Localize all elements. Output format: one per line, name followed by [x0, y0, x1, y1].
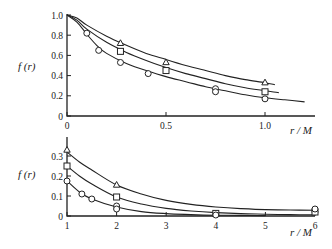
top-circle-marker: [213, 89, 219, 95]
top-square-marker: [163, 68, 169, 74]
bottom-triangle-marker: [64, 147, 70, 153]
top-square-marker: [262, 89, 268, 95]
bottom-panel: 12345600.10.20.3 f (r) r / M: [18, 137, 318, 238]
bottom-x-tick-label: 4: [213, 221, 218, 231]
top-axes: [67, 14, 315, 116]
top-x-tick-label: 0.5: [160, 121, 172, 131]
bottom-x-axis-label: r / M: [290, 226, 313, 238]
bottom-circle-marker: [114, 206, 120, 212]
top-x-tick-label: 1.0: [259, 121, 271, 131]
top-x-tick-label: 0: [65, 121, 70, 131]
bottom-square-marker: [114, 194, 120, 200]
bottom-y-tick-label: 0: [58, 212, 63, 222]
top-x-axis-label: r / M: [290, 124, 313, 136]
top-y-tick-label: 0.2: [51, 91, 63, 101]
bottom-y-tick-label: 0.1: [51, 192, 63, 202]
bottom-circle-marker: [64, 178, 70, 184]
bottom-circle-series-line: [67, 181, 265, 216]
top-y-tick-label: 0.4: [51, 71, 63, 81]
bottom-circle-marker: [89, 196, 95, 202]
top-circle-marker: [262, 96, 268, 102]
bottom-x-tick-label: 6: [313, 221, 318, 231]
top-panel: 00.51.000.20.40.60.81.0 f (r) r / M: [18, 11, 315, 137]
bottom-y-tick-label: 0.3: [51, 152, 63, 162]
bottom-square-marker: [64, 163, 70, 169]
bottom-circle-marker: [79, 191, 85, 197]
bottom-x-tick-label: 3: [164, 221, 169, 231]
top-circle-marker: [145, 71, 151, 77]
bottom-y-axis-label: f (r): [18, 168, 36, 181]
bottom-x-tick-label: 5: [263, 221, 268, 231]
bottom-triangle-series-line: [67, 152, 315, 210]
bottom-x-tick-label: 1: [65, 221, 70, 231]
top-square-marker: [117, 48, 123, 54]
bottom-circle-marker: [213, 212, 219, 218]
top-circle-marker: [84, 30, 90, 36]
top-circle-marker: [117, 59, 123, 65]
top-triangle-marker: [117, 40, 123, 46]
top-y-tick-label: 0.6: [51, 51, 63, 61]
top-circle-series-line: [67, 15, 305, 102]
top-y-axis-label: f (r): [18, 60, 36, 73]
top-y-tick-label: 0.8: [51, 31, 63, 41]
top-y-tick-label: 1.0: [51, 11, 63, 21]
bottom-square-series-line: [67, 166, 315, 215]
top-circle-marker: [96, 47, 102, 53]
top-y-tick-label: 0: [58, 112, 63, 122]
bottom-circle-marker: [312, 206, 318, 212]
chart: 00.51.000.20.40.60.81.0 f (r) r / M 1234…: [0, 0, 332, 249]
bottom-y-tick-label: 0.2: [51, 172, 63, 182]
bottom-x-tick-label: 2: [114, 221, 119, 231]
top-square-series-line: [67, 15, 279, 93]
